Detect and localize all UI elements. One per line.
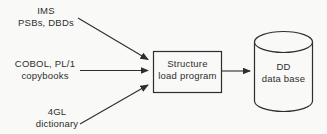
datastore-label-line1: DD: [254, 61, 313, 73]
source-label-cobol-line2: copybooks: [6, 70, 84, 82]
process-box-label-line2: load program: [153, 70, 222, 82]
source-label-cobol-line1: COBOL, PL/1: [6, 58, 84, 70]
arrow-ims-to-program: [78, 18, 148, 60]
datastore-label-line2: data base: [254, 73, 313, 85]
process-box-label-line1: Structure: [153, 58, 222, 70]
cylinder-top: [255, 32, 313, 53]
datastore-label: DD data base: [254, 61, 313, 85]
source-label-ims-line1: IMS: [6, 5, 86, 17]
process-box-label: Structure load program: [153, 58, 222, 82]
source-label-cobol: COBOL, PL/1 copybooks: [6, 58, 84, 82]
diagram-canvas: IMS PSBs, DBDs COBOL, PL/1 copybooks 4GL…: [0, 0, 327, 134]
source-label-ims-line2: PSBs, DBDs: [6, 17, 86, 29]
source-label-ims: IMS PSBs, DBDs: [6, 5, 86, 29]
source-label-4gl-line2: dictionary: [20, 118, 94, 130]
source-label-4gl-line1: 4GL: [20, 106, 94, 118]
source-label-4gl: 4GL dictionary: [20, 106, 94, 130]
